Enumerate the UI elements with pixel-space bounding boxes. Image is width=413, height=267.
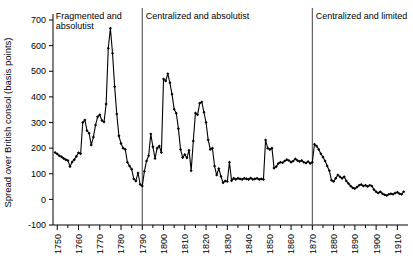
panel-label-3: Centralized and limited <box>316 11 408 21</box>
data-point-marker <box>179 148 182 151</box>
data-point-marker <box>213 165 216 168</box>
data-point-marker <box>143 170 146 173</box>
x-tick-label: 1750 <box>53 234 63 254</box>
data-point-marker <box>192 139 195 142</box>
data-point-marker <box>253 177 256 180</box>
y-tick-label: 200 <box>31 143 46 153</box>
data-point-marker <box>262 178 265 181</box>
y-tick-label: 600 <box>31 41 46 51</box>
data-point-marker <box>177 127 180 130</box>
data-point-marker <box>228 161 231 164</box>
x-tick-label: 1790 <box>138 234 148 254</box>
data-point-marker <box>219 175 222 178</box>
data-point-marker <box>190 169 193 172</box>
data-point-marker <box>153 157 156 160</box>
x-tick-label: 1870 <box>308 234 318 254</box>
y-axis-title: Spread over British consol (basis points… <box>2 37 13 207</box>
data-point-marker <box>215 173 218 176</box>
panel-label-2: Centralized and absolutist <box>146 11 250 21</box>
x-tick-label: 1850 <box>265 234 275 254</box>
y-tick-label: 700 <box>31 15 46 25</box>
data-point-marker <box>226 180 229 183</box>
x-tick-label: 1840 <box>244 234 254 254</box>
data-point-marker <box>115 112 118 115</box>
x-tick-label: 1860 <box>286 234 296 254</box>
data-point-marker <box>105 103 108 106</box>
data-point-marker <box>92 136 95 139</box>
data-point-marker <box>205 121 208 124</box>
data-point-marker <box>151 145 154 148</box>
data-point-marker <box>109 27 112 30</box>
data-point-marker <box>217 167 220 170</box>
data-point-marker <box>168 81 171 84</box>
panel-label-1-line2: absolutist <box>56 21 95 31</box>
data-point-marker <box>166 72 169 75</box>
x-tick-label: 1830 <box>223 234 233 254</box>
data-point-marker <box>117 134 120 137</box>
x-tick-label: 1900 <box>372 234 382 254</box>
chart-figure: -100010020030040050060070017501760177017… <box>0 0 413 267</box>
x-tick-label: 1910 <box>393 234 403 254</box>
y-tick-label: 400 <box>31 92 46 102</box>
x-tick-label: 1820 <box>201 234 211 254</box>
series-line-spread <box>55 28 404 195</box>
data-point-marker <box>170 93 173 96</box>
data-point-marker <box>94 124 97 127</box>
y-tick-label: 500 <box>31 66 46 76</box>
y-tick-label: 100 <box>31 169 46 179</box>
chart-svg: -100010020030040050060070017501760177017… <box>0 0 413 267</box>
data-point-marker <box>260 177 263 180</box>
y-tick-label: -100 <box>28 220 46 230</box>
panel-label-1-line1: Fragmented and <box>56 11 122 21</box>
data-point-marker <box>147 154 150 157</box>
data-point-marker <box>389 192 392 195</box>
data-point-marker <box>245 177 248 180</box>
y-tick-label: 0 <box>41 195 46 205</box>
data-point-marker <box>136 171 139 174</box>
x-tick-label: 1890 <box>350 234 360 254</box>
x-tick-label: 1770 <box>95 234 105 254</box>
x-tick-label: 1880 <box>329 234 339 254</box>
x-tick-label: 1780 <box>116 234 126 254</box>
data-point-marker <box>160 151 163 154</box>
data-point-marker <box>264 138 267 141</box>
data-point-marker <box>111 52 114 55</box>
x-tick-label: 1800 <box>159 234 169 254</box>
data-point-marker <box>113 85 116 88</box>
data-point-marker <box>239 177 242 180</box>
x-tick-label: 1760 <box>74 234 84 254</box>
data-point-marker <box>145 159 148 162</box>
data-point-marker <box>107 47 110 50</box>
y-tick-label: 300 <box>31 118 46 128</box>
data-point-marker <box>90 144 93 147</box>
x-tick-label: 1810 <box>180 234 190 254</box>
data-point-marker <box>187 149 190 152</box>
data-point-marker <box>207 138 210 141</box>
data-point-marker <box>149 132 152 135</box>
data-point-marker <box>202 111 205 114</box>
